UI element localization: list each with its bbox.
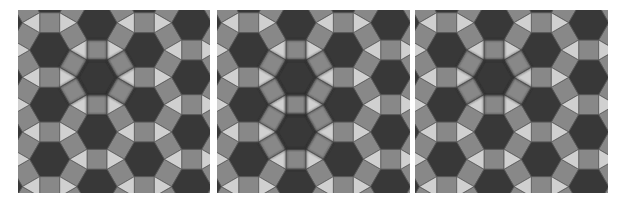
square-tile xyxy=(286,40,306,60)
square-tile xyxy=(239,13,259,33)
square-tile xyxy=(134,122,154,142)
square-tile xyxy=(239,177,259,193)
square-tile xyxy=(40,13,60,33)
square-tile xyxy=(531,122,551,142)
square-tile xyxy=(531,67,551,87)
square-tile xyxy=(182,40,202,60)
square-tile xyxy=(286,95,306,115)
square-tile xyxy=(40,67,60,87)
tiling-svg xyxy=(217,10,410,193)
tiling-panel-1 xyxy=(18,10,210,193)
square-tile xyxy=(134,13,154,33)
square-tile xyxy=(40,122,60,142)
square-tile xyxy=(484,40,504,60)
square-tile xyxy=(437,67,457,87)
square-tile xyxy=(182,149,202,169)
tiling-svg xyxy=(415,10,608,193)
square-tile xyxy=(333,122,353,142)
square-tile xyxy=(381,149,401,169)
square-tile xyxy=(579,95,599,115)
square-tile xyxy=(239,122,259,142)
square-tile xyxy=(381,40,401,60)
square-tile xyxy=(484,149,504,169)
square-tile xyxy=(333,67,353,87)
square-tile xyxy=(87,95,107,115)
square-tile xyxy=(239,67,259,87)
square-tile xyxy=(437,122,457,142)
square-tile xyxy=(531,13,551,33)
square-tile xyxy=(87,149,107,169)
square-tile xyxy=(333,13,353,33)
square-tile xyxy=(484,95,504,115)
square-tile xyxy=(381,95,401,115)
square-tile xyxy=(134,177,154,193)
square-tile xyxy=(333,177,353,193)
square-tile xyxy=(286,149,306,169)
square-tile xyxy=(40,177,60,193)
tiling-panel-2 xyxy=(217,10,410,193)
square-tile xyxy=(579,40,599,60)
tiling-panel-3 xyxy=(415,10,608,193)
tiling-svg xyxy=(18,10,210,193)
square-tile xyxy=(437,13,457,33)
square-tile xyxy=(579,149,599,169)
square-tile xyxy=(437,177,457,193)
square-tile xyxy=(87,40,107,60)
square-tile xyxy=(134,67,154,87)
square-tile xyxy=(531,177,551,193)
square-tile xyxy=(182,95,202,115)
